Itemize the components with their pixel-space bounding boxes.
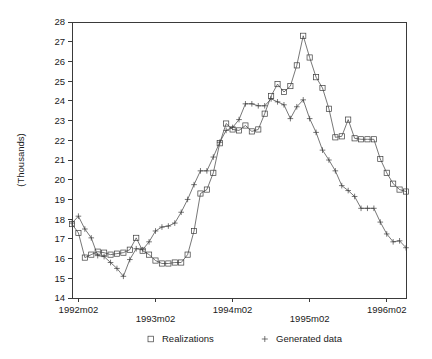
series-line <box>72 99 406 276</box>
legend-square-marker-icon <box>148 336 154 342</box>
y-tick-label: 28 <box>54 16 65 27</box>
y-axis-ticks: 141516171819202122232425262728 <box>54 16 72 303</box>
legend-item-label: Realizations <box>162 333 214 344</box>
x-tick-label: 1993m02 <box>136 313 176 324</box>
y-tick-label: 26 <box>54 56 65 67</box>
y-tick-label: 22 <box>54 135 65 146</box>
y-tick-label: 19 <box>54 194 65 205</box>
y-tick-label: 25 <box>54 76 65 87</box>
y-tick-label: 14 <box>54 292 65 303</box>
legend-item-1[interactable]: Realizations <box>148 333 214 344</box>
y-tick-label: 21 <box>54 154 65 165</box>
x-tick-label: 1996m02 <box>367 304 407 315</box>
y-tick-label: 23 <box>54 115 65 126</box>
chart-container: 141516171819202122232425262728 1992m0219… <box>0 0 432 359</box>
y-tick-label: 24 <box>54 95 65 106</box>
series-2 <box>69 96 409 279</box>
series-line <box>72 36 406 264</box>
series-1 <box>69 33 408 266</box>
y-tick-label: 20 <box>54 174 65 185</box>
y-tick-label: 16 <box>54 253 65 264</box>
line-chart: 141516171819202122232425262728 1992m0219… <box>0 0 432 359</box>
plot-border <box>72 22 406 298</box>
y-tick-label: 15 <box>54 273 65 284</box>
y-axis-label: (Thousands) <box>15 133 26 186</box>
plot-frame <box>72 22 406 298</box>
x-tick-label: 1992m02 <box>59 304 99 315</box>
x-axis-ticks: 1992m021993m021994m021995m021996m02 <box>59 298 407 324</box>
legend-item-2[interactable]: Generated data <box>262 333 343 344</box>
x-tick-label: 1995m02 <box>290 313 330 324</box>
legend-item-label: Generated data <box>276 333 343 344</box>
chart-legend[interactable]: RealizationsGenerated data <box>148 333 343 344</box>
x-tick-label: 1994m02 <box>213 304 253 315</box>
y-tick-label: 18 <box>54 214 65 225</box>
y-tick-label: 27 <box>54 36 65 47</box>
y-tick-label: 17 <box>54 233 65 244</box>
series-layer <box>69 33 409 279</box>
